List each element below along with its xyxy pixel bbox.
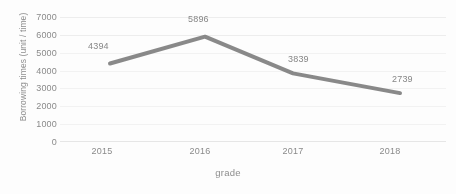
data-label-2015: 4394 (88, 42, 109, 51)
x-axis-title: grade (0, 167, 456, 178)
y-tick-label: 0 (20, 138, 57, 147)
y-tick-label: 7000 (20, 13, 57, 22)
y-tick-label: 6000 (20, 31, 57, 40)
x-tick-label-2015: 2015 (72, 146, 132, 156)
y-tick-label: 4000 (20, 67, 57, 76)
y-tick-label: 2000 (20, 102, 57, 111)
y-tick-label: 5000 (20, 49, 57, 58)
line-chart: Borrowing times (unit / time) 7000 6000 … (0, 0, 456, 194)
data-label-2017: 3839 (288, 55, 309, 64)
y-axis-tick-labels: 7000 6000 5000 4000 3000 2000 1000 0 (20, 0, 57, 194)
x-tick-label-2016: 2016 (170, 146, 230, 156)
y-tick-label: 1000 (20, 120, 57, 129)
x-axis-tick-labels: 2015 2016 2017 2018 (60, 146, 446, 160)
data-label-2018: 2739 (392, 75, 413, 84)
y-tick-label: 3000 (20, 84, 57, 93)
x-tick-label-2018: 2018 (360, 146, 420, 156)
series-line-borrowing-times (60, 17, 446, 142)
plot-area: 4394 5896 3839 2739 (60, 17, 446, 142)
data-label-2016: 5896 (188, 15, 209, 24)
x-tick-label-2017: 2017 (263, 146, 323, 156)
